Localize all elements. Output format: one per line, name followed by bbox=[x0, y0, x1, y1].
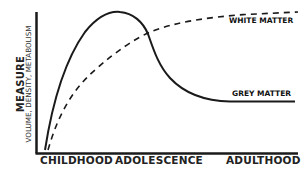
y-axis-subtitle: VOLUME, DENSITY, METABOLISM bbox=[24, 26, 33, 143]
white-matter-label: WHITE MATTER bbox=[229, 16, 293, 25]
chart-plot-area bbox=[0, 0, 307, 173]
grey-matter-label: GREY MATTER bbox=[232, 89, 291, 98]
brain-development-chart: MEASURE VOLUME, DENSITY, METABOLISM CHIL… bbox=[0, 0, 307, 173]
x-label-adulthood: ADULTHOOD bbox=[226, 154, 301, 166]
grey-matter-curve bbox=[45, 12, 295, 150]
x-label-adolescence: ADOLESCENCE bbox=[115, 154, 203, 166]
x-label-childhood: CHILDHOOD bbox=[40, 154, 113, 166]
